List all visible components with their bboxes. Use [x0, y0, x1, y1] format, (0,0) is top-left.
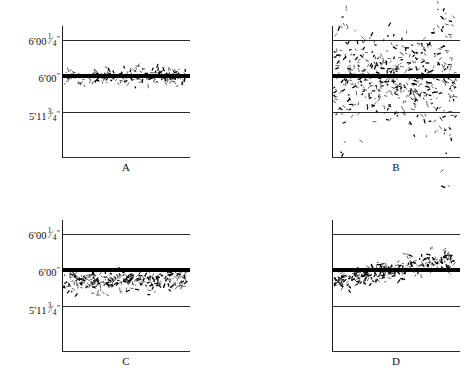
axis-label-upper-whole: 6'00: [29, 36, 47, 47]
axis-label-upper-unit: ": [57, 35, 60, 44]
fraction-bar: ⁄: [50, 111, 52, 121]
panel-d: D: [276, 208, 465, 368]
panel-a: 6'001⁄4" 6'00" 5'113⁄4" A: [6, 14, 196, 174]
fraction-bar: ⁄: [50, 230, 52, 240]
axis-label-upper-fraction: 1⁄4: [48, 35, 57, 46]
fraction-bar: ⁄: [50, 36, 52, 46]
axis-label-upper-whole: 6'00: [29, 230, 47, 241]
axis-label-lower: 5'113⁄4": [29, 110, 60, 123]
target-line-band: [62, 268, 190, 272]
panel-a-axis-labels: 6'001⁄4" 6'00" 5'113⁄4": [6, 14, 62, 174]
axis-label-target-whole: 6'00: [39, 267, 57, 278]
axis-label-upper-fraction: 1⁄4: [48, 229, 57, 240]
measurement-scatter-figure: 6'001⁄4" 6'00" 5'113⁄4" A: [0, 0, 465, 379]
panel-b-scatter-marks: [332, 0, 460, 188]
target-line-band: [62, 74, 190, 78]
axis-label-lower: 5'113⁄4": [29, 304, 60, 317]
target-line-band: [332, 268, 460, 272]
axis-label-upper: 6'001⁄4": [29, 229, 60, 242]
axis-label-target-whole: 6'00: [39, 73, 57, 84]
fraction-denominator: 4: [53, 309, 57, 317]
axis-label-upper-unit: ": [57, 229, 60, 238]
fraction-denominator: 4: [53, 115, 57, 123]
axis-label-lower-whole: 5'11: [29, 111, 47, 122]
axis-label-lower-fraction: 3⁄4: [48, 110, 57, 121]
panel-c-axis-labels: 6'001⁄4" 6'00" 5'113⁄4": [6, 208, 62, 368]
axis-label-target-unit: ": [57, 266, 60, 275]
axis-label-target: 6'00": [39, 73, 60, 85]
fraction-denominator: 4: [53, 40, 57, 48]
axis-label-upper: 6'001⁄4": [29, 35, 60, 48]
panel-c: 6'001⁄4" 6'00" 5'113⁄4" C: [6, 208, 196, 368]
axis-label-lower-unit: ": [57, 304, 60, 313]
axis-label-lower-fraction: 3⁄4: [48, 304, 57, 315]
fraction-bar: ⁄: [50, 305, 52, 315]
axis-label-lower-unit: ": [57, 110, 60, 119]
panel-a-plot: [62, 14, 190, 174]
panel-c-plot: [62, 208, 190, 368]
panel-a-scatter-marks: [62, 0, 190, 188]
target-line-band: [332, 74, 460, 78]
axis-label-target-unit: ": [57, 72, 60, 81]
panel-b: B: [276, 14, 465, 174]
panel-d-scatter-marks: [332, 194, 460, 379]
panel-d-plot: [332, 208, 460, 368]
axis-label-lower-whole: 5'11: [29, 305, 47, 316]
panel-b-plot: [332, 14, 460, 174]
axis-label-target: 6'00": [39, 267, 60, 279]
fraction-denominator: 4: [53, 234, 57, 242]
panel-c-scatter-marks: [62, 194, 190, 379]
